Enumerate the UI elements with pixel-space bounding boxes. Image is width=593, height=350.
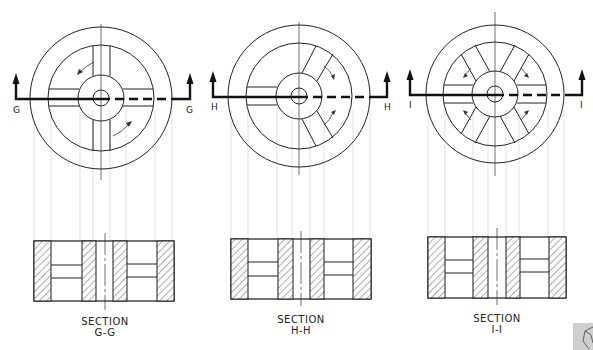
- cut-label-h-right: H: [384, 102, 391, 112]
- section-view-i: [428, 228, 566, 305]
- view-g: [13, 24, 194, 310]
- rotation-arrow-icon: [324, 66, 336, 125]
- section-id: G-G: [75, 327, 135, 338]
- cut-arrow-icon: [384, 71, 391, 82]
- section-caption-i: SECTION I-I: [467, 313, 527, 335]
- cut-arrow-icon: [210, 71, 217, 82]
- isometric-part-icon: [573, 323, 593, 350]
- technical-drawing: [0, 0, 593, 350]
- section-title: SECTION: [271, 314, 331, 325]
- cutting-plane-g: [13, 73, 194, 99]
- corner-thumbnail: [573, 323, 593, 350]
- cut-label-g-right: G: [186, 105, 193, 115]
- cut-arrow-icon: [187, 73, 194, 84]
- cutting-plane-h: [210, 71, 391, 97]
- projection-lines-g: [34, 110, 172, 240]
- projection-lines-i: [428, 110, 564, 240]
- cut-label-h-left: H: [211, 102, 218, 112]
- cutting-plane-i: [407, 69, 586, 95]
- section-title: SECTION: [467, 313, 527, 324]
- section-title: SECTION: [75, 316, 135, 327]
- section-id: I-I: [467, 324, 527, 335]
- cut-arrow-icon: [579, 69, 586, 80]
- section-id: H-H: [271, 325, 331, 336]
- view-i: [407, 12, 586, 305]
- section-caption-h: SECTION H-H: [271, 314, 331, 336]
- cut-arrow-icon: [13, 73, 20, 84]
- view-h: [210, 22, 391, 306]
- section-view-g: [34, 233, 174, 310]
- wheel-front-view-h: [228, 22, 370, 175]
- cut-label-i-right: I: [580, 100, 583, 110]
- projection-lines-h: [231, 110, 370, 240]
- section-caption-g: SECTION G-G: [75, 316, 135, 338]
- cut-label-g-left: G: [13, 105, 20, 115]
- cut-arrow-icon: [407, 69, 414, 80]
- cut-label-i-left: I: [409, 100, 412, 110]
- section-view-h: [231, 231, 371, 306]
